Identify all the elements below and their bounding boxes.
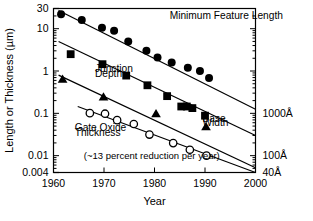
data-point-0-5: [142, 47, 150, 55]
data-point-1-0: [67, 50, 75, 58]
data-point-1-3: [144, 81, 152, 89]
y-tick-label-10: 10: [37, 22, 49, 34]
x-axis-title: Year: [143, 195, 166, 207]
data-point-3-3: [130, 120, 137, 127]
y-tick-label-right-0: 1000Å: [263, 107, 293, 119]
y-tick-label-30: 30: [37, 2, 49, 14]
semiconductor-scaling-log-chart: 301010.10.010.0041000Å100Å40Å19601970198…: [0, 0, 313, 221]
data-point-0-4: [124, 37, 132, 45]
annotation-2: Depth: [95, 68, 122, 79]
data-point-3-5: [169, 139, 176, 146]
x-tick-label-1980: 1980: [143, 177, 167, 189]
data-point-0-1: [78, 16, 86, 24]
x-tick-label-2000: 2000: [244, 177, 268, 189]
data-point-0-2: [98, 24, 106, 32]
x-tick-label-1990: 1990: [193, 177, 217, 189]
data-point-2-2: [151, 109, 161, 117]
annotation-6: Width: [202, 117, 228, 128]
data-point-0-3: [110, 27, 118, 35]
data-point-2-1: [99, 92, 109, 100]
data-point-0-6: [154, 53, 162, 61]
data-point-3-1: [101, 110, 108, 117]
annotation-0: Minimum Feature Length: [170, 10, 283, 21]
data-point-0-8: [184, 64, 192, 72]
data-point-3-0: [86, 109, 93, 116]
y-axis-title: Length or Thickness (µm): [3, 28, 15, 153]
plot-frame: [54, 9, 256, 173]
data-point-1-7: [188, 104, 196, 112]
x-tick-label-1960: 1960: [42, 177, 66, 189]
annotation-7: (~13 percent reduction per year): [84, 150, 220, 161]
chart-figure: 301010.10.010.0041000Å100Å40Å19601970198…: [0, 0, 313, 221]
y-tick-label-0.01: 0.01: [28, 149, 49, 161]
annotation-4: Thickness: [75, 127, 121, 138]
data-point-0-9: [196, 67, 204, 75]
data-point-3-4: [146, 131, 153, 138]
y-tick-label-1: 1: [43, 65, 49, 77]
data-point-0-7: [168, 58, 176, 66]
data-point-1-4: [163, 92, 171, 100]
data-point-0-10: [205, 74, 213, 82]
x-tick-label-1970: 1970: [92, 177, 116, 189]
y-tick-label-0.1: 0.1: [34, 107, 49, 119]
data-point-0-0: [57, 10, 65, 18]
y-tick-label-right-1: 100Å: [263, 149, 288, 161]
